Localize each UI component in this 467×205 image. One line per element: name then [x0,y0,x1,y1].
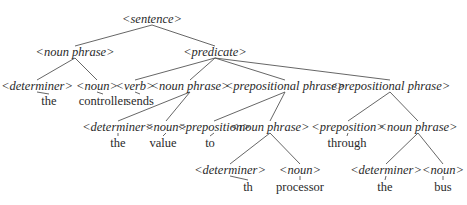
tree-edge [270,92,285,121]
terminal-word: th [243,181,253,194]
nonterminal-node: <noun phrase> [378,121,457,134]
terminal-word: the [110,137,125,150]
terminal-word: the [377,181,392,194]
nonterminal-node: <determiner> [82,121,154,134]
terminal-word: the [41,95,56,108]
nonterminal-node: <noun> [279,164,321,177]
tree-edge [75,58,97,80]
tree-edge [270,133,300,164]
terminal-word: bus [434,181,451,194]
terminal-word: value [149,137,176,150]
nonterminal-node: <determiner> [1,80,73,93]
tree-edge [152,25,215,46]
nonterminal-node: <noun phrase> [230,121,309,134]
nonterminal-node: <predicate> [183,46,247,59]
terminal-word: controller [79,95,128,108]
tree-edge [348,92,390,121]
tree-edge [215,58,285,80]
parse-tree-diagram: <sentence><noun phrase><predicate><deter… [0,0,467,205]
terminal-word: sends [126,95,154,108]
nonterminal-node: <prepositional phrase> [330,80,450,93]
terminal-word: to [205,137,215,150]
nonterminal-node: <prepositional phrase> [225,80,345,93]
nonterminal-node: <sentence> [122,13,182,26]
terminal-word: processor [276,181,324,194]
terminal-word: through [328,137,367,150]
nonterminal-node: <noun> [76,80,118,93]
nonterminal-node: <noun phrase> [35,46,114,59]
tree-edge [214,92,285,121]
tree-edge [37,58,75,80]
nonterminal-node: <noun phrase> [150,80,229,93]
nonterminal-node: <verb> [115,80,154,93]
nonterminal-node: <determiner> [194,164,266,177]
tree-edge [215,58,390,80]
tree-edge [230,133,270,164]
tree-edge [386,133,418,164]
nonterminal-node: <noun> [422,164,464,177]
tree-edge [418,133,443,164]
tree-edge [75,25,152,46]
nonterminal-node: <preposition> [311,121,384,134]
nonterminal-node: <determiner> [350,164,422,177]
tree-edge [390,92,418,121]
